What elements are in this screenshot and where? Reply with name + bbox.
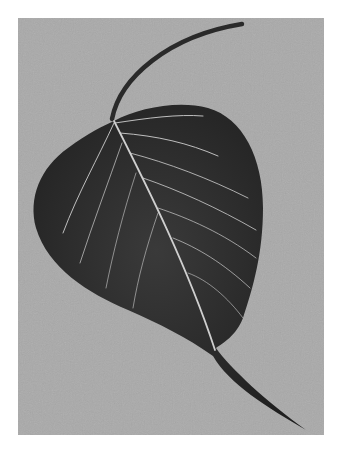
leaf-photograph [18,18,324,435]
leaf-illustration [18,18,324,435]
